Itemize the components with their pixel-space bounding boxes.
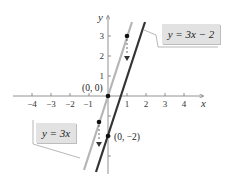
- arrowhead-top: [124, 56, 130, 61]
- line-y-3x-minus-2: [96, 22, 145, 172]
- x-tick-m2: −2: [65, 99, 75, 109]
- x-tick-m1: −1: [83, 99, 93, 109]
- y-tick-p3: 3: [100, 31, 105, 41]
- y-tick-p1: 1: [100, 71, 105, 81]
- point-neg-half: [97, 120, 102, 125]
- arrowhead-bottom: [96, 142, 102, 147]
- point-1-3: [125, 34, 130, 39]
- legend-eq2: y = 3x − 2: [162, 24, 220, 44]
- origin-label: (0, 0): [82, 83, 103, 94]
- y-axis-label: y: [97, 11, 103, 23]
- x-tick-m3: −3: [46, 99, 56, 109]
- x-tick-p2: 2: [144, 99, 149, 109]
- x-tick-p4: 4: [182, 99, 187, 109]
- y-tick-p2: 2: [100, 51, 105, 61]
- legend-eq2-text: y = 3x − 2: [168, 28, 215, 40]
- x-axis-label: x: [200, 97, 206, 109]
- x-tick-m4: −4: [27, 99, 37, 109]
- x-tick-p1: 1: [125, 99, 130, 109]
- point-origin: [106, 94, 111, 99]
- intercept-label: (0, −2): [114, 132, 140, 143]
- legend-eq1: y = 3x: [36, 123, 76, 143]
- x-tick-p3: 3: [163, 99, 168, 109]
- point-0-neg2: [106, 134, 111, 139]
- legend-eq1-text: y = 3x: [42, 127, 70, 139]
